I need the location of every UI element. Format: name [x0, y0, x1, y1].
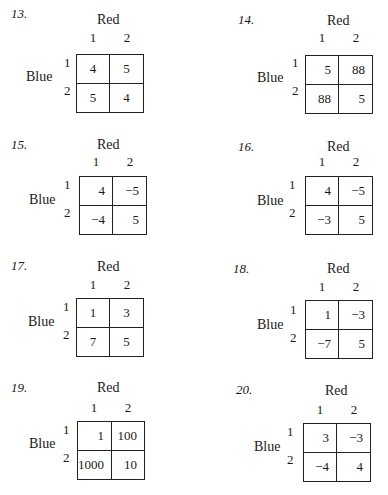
payoff-matrix: 4−5−35 — [305, 176, 373, 235]
row-strategy-label: 1 — [287, 424, 294, 440]
column-player-label: Red — [327, 13, 350, 29]
row-player-label: Blue — [257, 70, 283, 86]
row-strategy-label: 2 — [63, 450, 70, 466]
row-strategy-label: 2 — [290, 330, 297, 346]
row-player-label: Blue — [29, 192, 55, 208]
column-strategy-label: 2 — [110, 277, 144, 293]
column-strategy-label: 2 — [339, 154, 373, 170]
column-strategy-label: 1 — [305, 30, 339, 46]
payoff-cell: 5 — [306, 56, 339, 85]
problem-number: 13. — [11, 6, 27, 22]
payoff-cell: 88 — [339, 56, 372, 85]
problem-number: 15. — [11, 137, 27, 153]
row-strategy-label: 2 — [64, 83, 71, 99]
column-strategy-label: 1 — [305, 154, 339, 170]
payoff-cell: 1 — [78, 422, 112, 451]
payoff-matrix: 4554 — [76, 54, 144, 113]
payoff-matrix: 3−3−44 — [303, 423, 371, 482]
payoff-cell: −4 — [304, 453, 337, 482]
payoff-cell: 5 — [113, 206, 146, 235]
payoff-cell: 3 — [110, 299, 143, 328]
payoff-cell: 5 — [339, 206, 372, 235]
row-player-label: Blue — [26, 69, 52, 85]
payoff-cell: 88 — [306, 85, 339, 114]
column-strategy-label: 2 — [111, 400, 145, 416]
payoff-cell: −4 — [80, 206, 113, 235]
row-strategy-label: 1 — [292, 55, 299, 71]
column-strategy-label: 1 — [76, 277, 110, 293]
row-player-label: Blue — [257, 193, 283, 209]
payoff-cell: 5 — [110, 55, 143, 84]
payoff-matrix: 1−3−75 — [305, 300, 373, 359]
column-player-label: Red — [97, 12, 120, 28]
payoff-cell: 4 — [80, 177, 113, 206]
column-strategy-label: 2 — [337, 402, 371, 418]
payoff-cell: 10 — [112, 451, 144, 480]
payoff-matrix: 1375 — [76, 298, 144, 357]
problem-number: 17. — [11, 258, 27, 274]
row-player-label: Blue — [254, 439, 280, 455]
payoff-cell: 1 — [306, 301, 339, 330]
row-strategy-label: 2 — [64, 205, 71, 221]
problem-number: 19. — [11, 380, 27, 396]
column-player-label: Red — [327, 261, 350, 277]
payoff-cell: 4 — [337, 453, 370, 482]
column-player-label: Red — [97, 137, 120, 153]
row-strategy-label: 2 — [292, 83, 299, 99]
column-player-label: Red — [97, 380, 120, 396]
payoff-cell: 4 — [306, 177, 339, 206]
row-strategy-label: 2 — [63, 327, 70, 343]
payoff-cell: 7 — [77, 328, 110, 357]
payoff-cell: −7 — [306, 330, 339, 359]
problem-number: 20. — [236, 382, 252, 398]
column-strategy-label: 1 — [303, 402, 337, 418]
problem-number: 16. — [238, 139, 254, 155]
row-strategy-label: 2 — [289, 205, 296, 221]
payoff-matrix: 1100100010 — [77, 421, 145, 480]
payoff-cell: 5 — [339, 85, 372, 114]
problem-number: 18. — [233, 261, 249, 277]
problem-number: 14. — [238, 12, 254, 28]
column-strategy-label: 2 — [339, 30, 373, 46]
row-strategy-label: 1 — [64, 55, 71, 71]
column-strategy-label: 2 — [339, 279, 373, 295]
column-strategy-label: 1 — [79, 154, 113, 170]
row-strategy-label: 1 — [64, 177, 71, 193]
payoff-cell: 1000 — [78, 451, 112, 480]
row-strategy-label: 1 — [63, 422, 70, 438]
payoff-cell: −5 — [113, 177, 146, 206]
payoff-matrix: 4−5−45 — [79, 176, 147, 235]
payoff-cell: −5 — [339, 177, 372, 206]
payoff-cell: −3 — [339, 301, 372, 330]
payoff-cell: 4 — [110, 84, 143, 113]
payoff-cell: 4 — [77, 55, 110, 84]
row-strategy-label: 1 — [289, 177, 296, 193]
payoff-cell: −3 — [306, 206, 339, 235]
row-strategy-label: 1 — [63, 299, 70, 315]
payoff-matrix: 588885 — [305, 55, 373, 114]
row-strategy-label: 1 — [290, 302, 297, 318]
payoff-cell: 5 — [77, 84, 110, 113]
row-strategy-label: 2 — [287, 452, 294, 468]
column-strategy-label: 2 — [110, 30, 144, 46]
column-strategy-label: 1 — [305, 279, 339, 295]
row-player-label: Blue — [257, 317, 283, 333]
payoff-cell: 5 — [339, 330, 372, 359]
payoff-cell: 100 — [112, 422, 144, 451]
row-player-label: Blue — [28, 314, 54, 330]
column-strategy-label: 2 — [113, 154, 147, 170]
payoff-cell: 1 — [77, 299, 110, 328]
payoff-cell: 3 — [304, 424, 337, 453]
column-player-label: Red — [327, 139, 350, 155]
column-player-label: Red — [97, 259, 120, 275]
column-strategy-label: 1 — [77, 400, 111, 416]
payoff-cell: −3 — [337, 424, 370, 453]
column-strategy-label: 1 — [76, 30, 110, 46]
row-player-label: Blue — [29, 436, 55, 452]
payoff-cell: 5 — [110, 328, 143, 357]
column-player-label: Red — [325, 383, 348, 399]
